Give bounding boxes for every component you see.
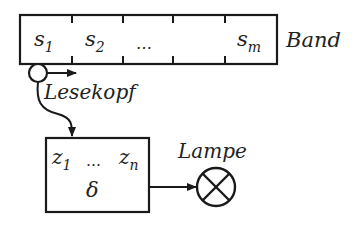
turing-machine-diagram: s1 s2 … sm Band Lesekopf z1 … zn δ Lampe xyxy=(0,0,361,235)
tape-label: Band xyxy=(285,28,341,52)
read-head-label: Lesekopf xyxy=(43,80,139,104)
transition-function: δ xyxy=(86,178,99,202)
state-zn: zn xyxy=(118,145,139,173)
tape-cell-2: s2 xyxy=(85,27,105,55)
tape-cell-1: s1 xyxy=(34,27,54,55)
lamp-label: Lampe xyxy=(177,139,247,163)
state-ellipsis: … xyxy=(86,152,101,170)
state-z1: z1 xyxy=(51,145,71,173)
control-unit: z1 … zn δ xyxy=(46,138,149,212)
tape-cell-m: sm xyxy=(237,27,261,55)
tape-cell-ellipsis: … xyxy=(136,34,152,53)
lamp-icon xyxy=(197,168,235,206)
tape: s1 s2 … sm xyxy=(20,15,277,64)
